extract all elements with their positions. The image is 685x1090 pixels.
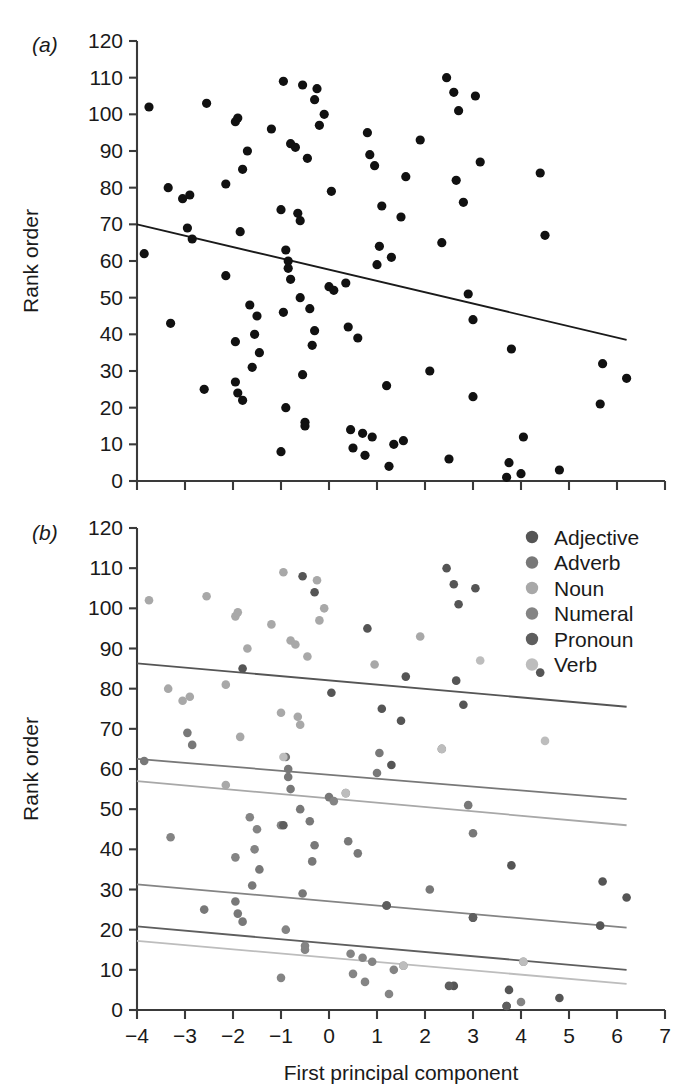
- data-point: [377, 201, 386, 210]
- x-tick-label: 6: [611, 1024, 623, 1047]
- data-point: [360, 451, 369, 460]
- data-point-numeral: [346, 949, 355, 958]
- data-point-verb: [342, 789, 351, 798]
- data-point: [300, 421, 309, 430]
- data-point: [308, 341, 317, 350]
- y-tick-label: 0: [111, 998, 123, 1021]
- legend-marker-numeral[interactable]: [526, 607, 538, 619]
- data-point: [202, 99, 211, 108]
- x-tick-label: 7: [659, 1024, 671, 1047]
- data-point: [536, 168, 545, 177]
- data-point-adverb: [464, 801, 473, 810]
- data-point: [358, 429, 367, 438]
- data-point-adverb: [306, 817, 315, 826]
- y-tick-label: 0: [111, 469, 123, 492]
- data-point-noun: [145, 596, 154, 605]
- data-point: [312, 84, 321, 93]
- data-point: [622, 374, 631, 383]
- data-point-numeral: [253, 825, 262, 834]
- legend-label-pronoun[interactable]: Pronoun: [554, 628, 633, 651]
- data-point-numeral: [517, 998, 526, 1007]
- data-point-adjective: [238, 664, 247, 673]
- x-tick-label: 0: [323, 1024, 335, 1047]
- data-point: [468, 315, 477, 324]
- legend-label-adjective[interactable]: Adjective: [554, 526, 639, 549]
- data-point: [250, 330, 259, 339]
- data-point: [502, 473, 511, 482]
- data-point: [276, 205, 285, 214]
- data-point: [399, 436, 408, 445]
- data-point: [370, 161, 379, 170]
- x-tick-label: −3: [173, 1024, 197, 1047]
- data-point: [449, 88, 458, 97]
- data-point-noun: [222, 680, 231, 689]
- y-tick-label: 20: [100, 396, 123, 419]
- data-point-noun: [416, 632, 425, 641]
- data-point: [164, 183, 173, 192]
- legend-label-adverb[interactable]: Adverb: [554, 551, 621, 574]
- data-point: [200, 385, 209, 394]
- data-point-adjective: [536, 668, 545, 677]
- x-tick-label: 2: [419, 1024, 431, 1047]
- data-point: [437, 238, 446, 247]
- data-point: [401, 172, 410, 181]
- data-point-adverb: [373, 769, 382, 778]
- legend-marker-adverb[interactable]: [526, 556, 538, 568]
- data-point-noun: [277, 708, 286, 717]
- data-point: [444, 454, 453, 463]
- y-tick-label: 40: [100, 837, 123, 860]
- legend-label-noun[interactable]: Noun: [554, 577, 604, 600]
- data-point-numeral: [231, 853, 240, 862]
- panel-b: 0102030405060708090100110120−4−3−2−10123…: [19, 516, 671, 1047]
- data-point: [344, 322, 353, 331]
- data-point: [281, 245, 290, 254]
- data-point: [291, 143, 300, 152]
- data-point: [252, 311, 261, 320]
- data-point-noun: [234, 608, 243, 617]
- data-point-numeral: [390, 966, 399, 975]
- data-point-adjective: [452, 676, 461, 685]
- x-tick-label: 5: [563, 1024, 575, 1047]
- two-panel-scatter-figure: 0102030405060708090100110120Rank order(a…: [0, 0, 685, 1090]
- data-point-adverb: [286, 785, 295, 794]
- panel-a-points: [140, 73, 632, 482]
- data-point-adjective: [310, 588, 319, 597]
- data-point-adjective: [363, 624, 372, 633]
- data-point-numeral: [277, 974, 286, 983]
- legend-label-verb[interactable]: Verb: [554, 653, 597, 676]
- data-point: [329, 286, 338, 295]
- legend-marker-verb[interactable]: [526, 658, 538, 670]
- data-point-numeral: [301, 945, 310, 954]
- data-point-adverb: [354, 849, 363, 858]
- data-point: [296, 293, 305, 302]
- y-tick-label: 70: [100, 212, 123, 235]
- data-point-numeral: [349, 970, 358, 979]
- data-point-adverb: [284, 765, 293, 774]
- data-point-noun: [315, 616, 324, 625]
- data-point: [516, 469, 525, 478]
- legend-marker-noun[interactable]: [526, 582, 538, 594]
- data-point: [320, 110, 329, 119]
- data-point: [221, 179, 230, 188]
- legend-marker-pronoun[interactable]: [526, 633, 538, 645]
- legend-label-numeral[interactable]: Numeral: [554, 602, 633, 625]
- data-point-adverb: [255, 865, 264, 874]
- data-point-numeral: [368, 958, 377, 967]
- data-point: [231, 337, 240, 346]
- data-point-verb: [541, 737, 550, 746]
- y-tick-label: 100: [88, 596, 123, 619]
- data-point-noun: [294, 712, 303, 721]
- x-tick-label: 1: [371, 1024, 383, 1047]
- data-point: [387, 253, 396, 262]
- data-point: [279, 77, 288, 86]
- data-point: [341, 278, 350, 287]
- y-tick-label: 80: [100, 176, 123, 199]
- data-point-pronoun: [502, 1002, 511, 1011]
- data-point-adjective: [507, 861, 516, 870]
- y-axis-title: Rank order: [19, 717, 42, 821]
- y-tick-label: 60: [100, 757, 123, 780]
- data-point-adverb: [284, 773, 293, 782]
- y-tick-label: 40: [100, 322, 123, 345]
- data-point-adverb: [234, 909, 243, 918]
- legend-marker-adjective[interactable]: [526, 531, 538, 543]
